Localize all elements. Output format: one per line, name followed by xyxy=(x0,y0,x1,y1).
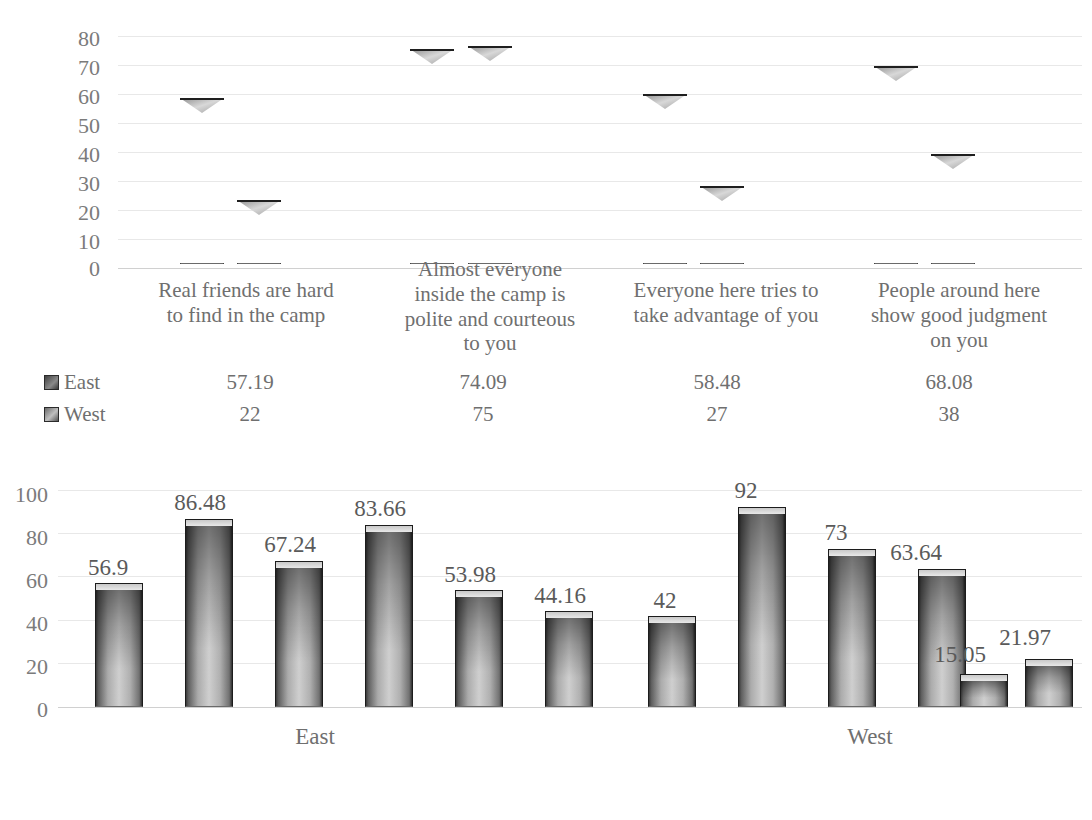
bottom-ytick-40: 40 xyxy=(0,613,48,635)
bottom-bar-east-4 xyxy=(365,525,413,707)
east-series-swatch-icon xyxy=(44,375,59,390)
top-category-2-line2: inside the camp is xyxy=(372,282,608,307)
top-bar-east-2 xyxy=(410,49,454,264)
top-category-2-line4: to you xyxy=(372,331,608,356)
bottom-value-label-east-4: 83.66 xyxy=(330,496,430,522)
bottom-ytick-60: 60 xyxy=(0,570,48,592)
bottom-value-label-west-2: 92 xyxy=(706,478,786,504)
bottom-bar-west-1 xyxy=(648,616,696,707)
table-cell-west-2: 75 xyxy=(383,402,583,427)
legend-item-west: West xyxy=(44,402,105,427)
table-row-east: East 57.19 74.09 58.48 68.08 xyxy=(0,370,1092,400)
bottom-bar-west-3 xyxy=(828,549,876,707)
bottom-bar-west-5 xyxy=(960,674,1008,707)
top-ytick-50: 50 xyxy=(52,115,100,137)
top-bar-east-1 xyxy=(180,98,224,264)
top-ytick-70: 70 xyxy=(52,57,100,79)
bottom-bar-west-2 xyxy=(738,507,786,707)
table-cell-east-4: 68.08 xyxy=(849,370,1049,395)
bottom-ytick-100: 100 xyxy=(0,484,48,506)
bottom-bar-east-2 xyxy=(185,519,233,707)
top-category-2-line3: polite and courteous xyxy=(372,307,608,332)
bottom-value-label-west-4: 63.64 xyxy=(866,540,966,566)
top-category-label-4: People around here show good judgment on… xyxy=(848,278,1070,352)
bottom-bar-east-5 xyxy=(455,590,503,707)
table-cell-east-2: 74.09 xyxy=(383,370,583,395)
top-bar-west-3 xyxy=(700,186,744,264)
top-ytick-0: 0 xyxy=(52,258,100,280)
legend-item-east: East xyxy=(44,370,100,395)
bottom-value-label-east-3: 67.24 xyxy=(240,532,340,558)
top-bar-west-1 xyxy=(237,200,281,264)
top-ytick-20: 20 xyxy=(52,202,100,224)
bottom-bar-chart: 100 80 60 40 20 0 xyxy=(0,462,1092,820)
top-category-label-2: Almost everyone inside the camp is polit… xyxy=(372,257,608,356)
top-category-1-line1: Real friends are hard xyxy=(120,278,372,303)
bottom-group-label-west: West xyxy=(800,724,940,750)
west-series-swatch-icon xyxy=(44,407,59,422)
bottom-bar-east-3 xyxy=(275,561,323,707)
legend-label-west: West xyxy=(64,402,105,427)
bottom-value-label-east-2: 86.48 xyxy=(150,490,250,516)
top-category-2-line1: Almost everyone xyxy=(372,257,608,282)
table-cell-east-1: 57.19 xyxy=(150,370,350,395)
bottom-ytick-0: 0 xyxy=(0,699,48,721)
top-category-1-line2: to find in the camp xyxy=(120,303,372,328)
bottom-bar-east-1 xyxy=(95,583,143,707)
top-category-3-line2: take advantage of you xyxy=(606,303,846,328)
chart-data-table: East 57.19 74.09 58.48 68.08 West 22 75 … xyxy=(0,370,1092,436)
top-ytick-40: 40 xyxy=(52,144,100,166)
top-category-4-line2: show good judgment xyxy=(848,303,1070,328)
bottom-value-label-west-1: 42 xyxy=(625,588,705,614)
top-bar-east-4 xyxy=(874,66,918,264)
bottom-group-label-east: East xyxy=(245,724,385,750)
top-ytick-30: 30 xyxy=(52,173,100,195)
top-category-label-3: Everyone here tries to take advantage of… xyxy=(606,278,846,328)
top-bar-west-2 xyxy=(468,46,512,264)
bottom-value-label-west-3: 73 xyxy=(796,520,876,546)
bottom-axis-baseline xyxy=(58,707,1082,708)
legend-label-east: East xyxy=(64,370,100,395)
bottom-bar-west-4 xyxy=(918,569,966,707)
table-cell-west-1: 22 xyxy=(150,402,350,427)
top-ytick-60: 60 xyxy=(52,86,100,108)
bottom-value-label-east-1: 56.9 xyxy=(68,555,148,581)
bottom-ytick-80: 80 xyxy=(0,527,48,549)
table-cell-east-3: 58.48 xyxy=(617,370,817,395)
table-cell-west-4: 38 xyxy=(849,402,1049,427)
bottom-value-label-west-6: 21.97 xyxy=(975,625,1075,651)
top-category-4-line3: on you xyxy=(848,328,1070,353)
table-row-west: West 22 75 27 38 xyxy=(0,402,1092,432)
bottom-bar-east-6 xyxy=(545,611,593,707)
top-plot-area xyxy=(118,32,1078,264)
top-ytick-10: 10 xyxy=(52,231,100,253)
top-category-4-line1: People around here xyxy=(848,278,1070,303)
bottom-ytick-20: 20 xyxy=(0,656,48,678)
top-category-label-1: Real friends are hard to find in the cam… xyxy=(120,278,372,328)
bottom-bar-west-6 xyxy=(1025,659,1073,707)
table-cell-west-3: 27 xyxy=(617,402,817,427)
top-bar-east-3 xyxy=(643,94,687,264)
bottom-value-label-east-5: 53.98 xyxy=(420,562,520,588)
bottom-value-label-east-6: 44.16 xyxy=(510,583,610,609)
top-ytick-80: 80 xyxy=(52,28,100,50)
top-category-3-line1: Everyone here tries to xyxy=(606,278,846,303)
top-bar-west-4 xyxy=(931,154,975,264)
